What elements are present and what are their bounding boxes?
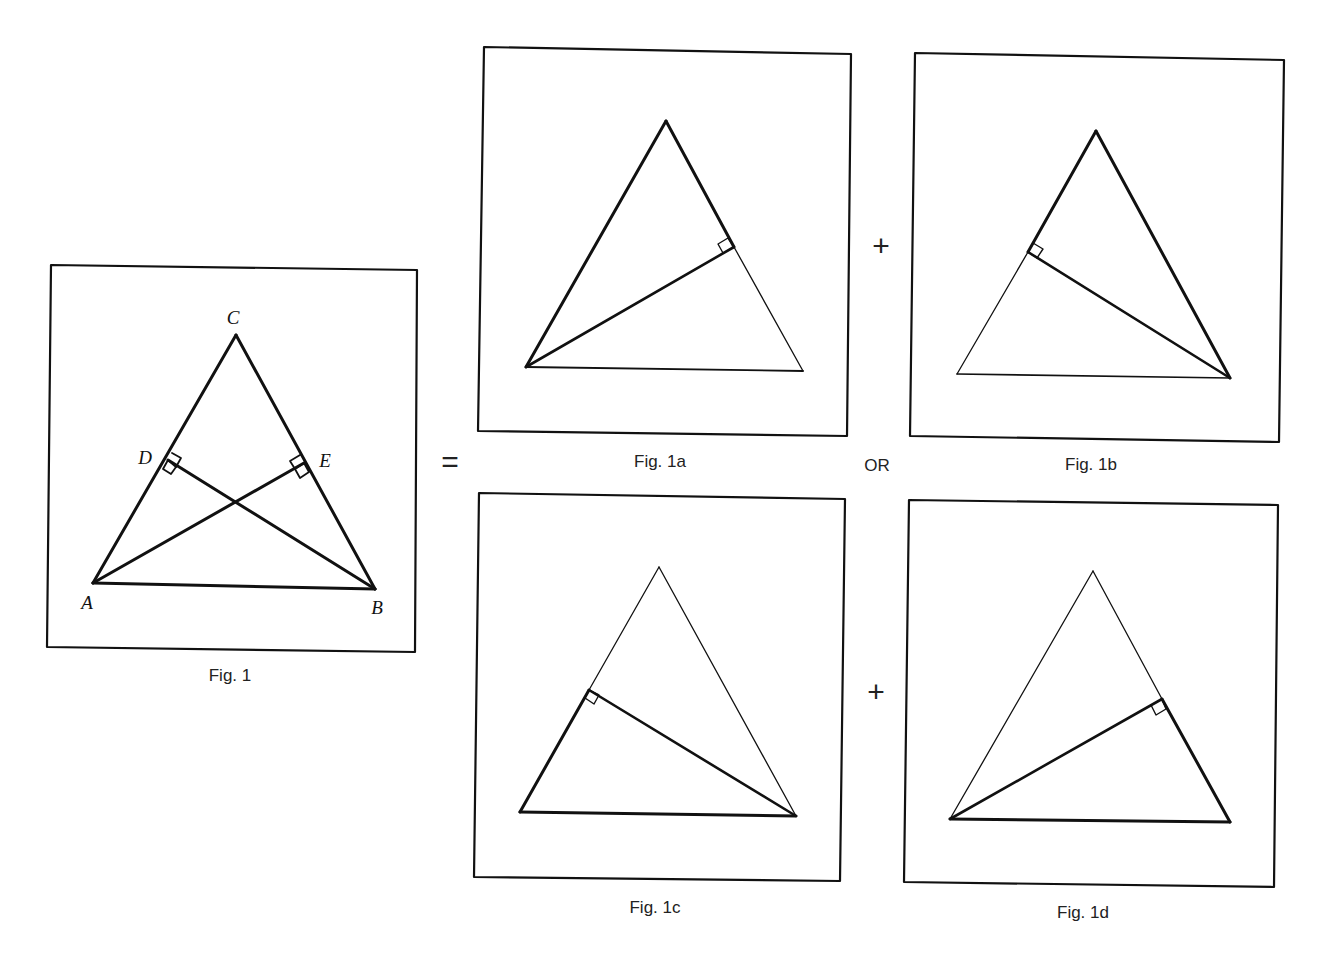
fig1d-base [950, 819, 1230, 822]
fig1d-side-left [950, 571, 1093, 819]
fig1a-side-right-lower [734, 247, 803, 371]
fig1a-altitude [526, 247, 734, 367]
vertex-label-E: E [319, 450, 331, 472]
equals-sign: = [441, 445, 459, 479]
fig1b-altitude [1028, 252, 1230, 378]
plus-sign-top: + [872, 229, 890, 263]
fig1b-panel [910, 53, 1284, 442]
fig1b-frame [910, 53, 1284, 442]
diagram-canvas [0, 0, 1326, 957]
caption-fig1: Fig. 1 [209, 666, 252, 686]
fig1d-side-right-lower [1162, 699, 1230, 822]
fig1c-side-left-lower [520, 690, 589, 812]
fig1c-side-right [659, 567, 796, 816]
fig1c-altitude [589, 690, 796, 816]
fig1a-base [526, 367, 803, 371]
fig1a-side-left [526, 121, 666, 367]
fig1-altitude-AE [93, 463, 304, 583]
or-label: OR [864, 456, 890, 476]
fig1b-base [957, 374, 1230, 378]
fig1a-side-right-upper [666, 121, 734, 247]
fig1-side-AC [93, 335, 236, 583]
caption-fig1c: Fig. 1c [629, 898, 680, 918]
fig1b-side-left-upper [1028, 131, 1096, 252]
caption-fig1d: Fig. 1d [1057, 903, 1109, 923]
vertex-label-D: D [138, 447, 152, 469]
fig1a-panel [478, 47, 851, 436]
caption-fig1b: Fig. 1b [1065, 455, 1117, 475]
fig1-side-BC [236, 335, 375, 589]
fig1d-frame [904, 500, 1278, 887]
vertex-label-B: B [371, 597, 383, 619]
fig1b-side-right [1096, 131, 1230, 378]
fig1d-panel [904, 500, 1278, 887]
fig1c-frame [474, 493, 845, 881]
fig1c-base [520, 812, 796, 816]
fig1c-side-left-upper [589, 567, 659, 690]
fig1d-side-right-upper [1093, 571, 1162, 699]
vertex-label-C: C [227, 307, 240, 329]
fig1-altitude-BD [168, 460, 375, 589]
fig1d-altitude [950, 699, 1162, 819]
fig1-side-AB [93, 583, 375, 589]
fig1a-frame [478, 47, 851, 436]
vertex-label-A: A [81, 592, 93, 614]
caption-fig1a: Fig. 1a [634, 452, 686, 472]
plus-sign-bottom: + [867, 675, 885, 709]
fig1c-panel [474, 493, 845, 881]
fig1b-side-left-lower [957, 252, 1028, 374]
